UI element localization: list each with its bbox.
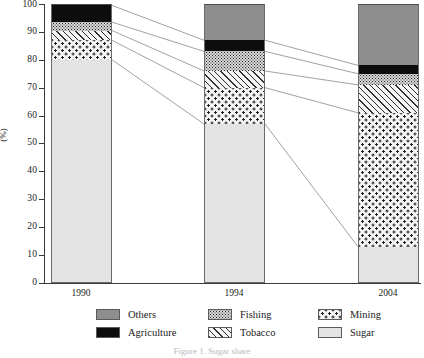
segment-2004-sugar[interactable]: [358, 247, 419, 283]
bar-1994[interactable]: [204, 4, 265, 283]
legend-item-others[interactable]: Others: [96, 309, 156, 320]
legend-item-fishing[interactable]: Fishing: [208, 309, 272, 320]
y-tick-label-10: 10: [5, 250, 37, 260]
y-tick-label-30: 30: [5, 194, 37, 204]
legend-label-tobacco: Tobacco: [240, 327, 275, 338]
legend-swatch-agriculture-icon: [96, 327, 120, 338]
segment-1994-agriculture[interactable]: [204, 40, 265, 51]
segment-2004-agriculture[interactable]: [358, 65, 419, 73]
x-tick-label-2004: 2004: [353, 288, 423, 299]
legend-swatch-mining-icon: [318, 309, 342, 320]
segment-2004-others[interactable]: [358, 4, 419, 65]
y-tick-label-0: 0: [5, 278, 37, 288]
legend-item-sugar[interactable]: Sugar: [318, 327, 375, 338]
legend-item-mining[interactable]: Mining: [318, 309, 381, 320]
legend-swatch-fishing-icon: [208, 309, 232, 320]
segment-1994-mining[interactable]: [204, 88, 265, 124]
legend-item-tobacco[interactable]: Tobacco: [208, 327, 275, 338]
legend-item-agriculture[interactable]: Agriculture: [96, 327, 176, 338]
x-tick-label-1994: 1994: [199, 288, 269, 299]
legend-label-agriculture: Agriculture: [128, 327, 176, 338]
segment-1990-sugar[interactable]: [51, 60, 112, 283]
segment-2004-fishing[interactable]: [358, 74, 419, 85]
y-tick-label-20: 20: [5, 222, 37, 232]
segment-2004-mining[interactable]: [358, 113, 419, 247]
segment-1994-tobacco[interactable]: [204, 71, 265, 88]
legend-label-fishing: Fishing: [240, 309, 272, 320]
y-tick-label-100: 100: [5, 0, 37, 10]
y-tick-label-90: 90: [5, 27, 37, 37]
y-tick-label-70: 70: [5, 83, 37, 93]
figure-caption: Figure 1. Sugar share: [0, 346, 424, 356]
legend-label-mining: Mining: [350, 309, 381, 320]
segment-1990-mining[interactable]: [51, 40, 112, 60]
segment-1994-fishing[interactable]: [204, 51, 265, 71]
legend-label-others: Others: [128, 309, 156, 320]
x-axis-line: [44, 283, 421, 284]
segment-1990-agriculture[interactable]: [51, 5, 112, 22]
x-tick-label-1990: 1990: [46, 288, 116, 299]
stacked-bar-chart: (%) 100 90 80 70 60 50 40 30 20 10 0: [0, 0, 424, 358]
y-tick-mark-0: [39, 283, 44, 284]
y-tick-label-60: 60: [5, 111, 37, 121]
plot-area: [44, 4, 420, 283]
bar-1990[interactable]: [51, 4, 112, 283]
segment-2004-tobacco[interactable]: [358, 85, 419, 113]
legend-swatch-sugar-icon: [318, 327, 342, 338]
legend-label-sugar: Sugar: [350, 327, 375, 338]
segment-1994-others[interactable]: [204, 4, 265, 40]
legend-swatch-others-icon: [96, 309, 120, 320]
y-tick-label-80: 80: [5, 55, 37, 65]
segment-1990-tobacco[interactable]: [51, 31, 112, 41]
y-tick-label-50: 50: [5, 138, 37, 148]
segment-1994-sugar[interactable]: [204, 124, 265, 283]
legend-swatch-tobacco-icon: [208, 327, 232, 338]
y-tick-label-40: 40: [5, 166, 37, 176]
bar-2004[interactable]: [358, 4, 419, 283]
segment-1990-fishing[interactable]: [51, 22, 112, 30]
